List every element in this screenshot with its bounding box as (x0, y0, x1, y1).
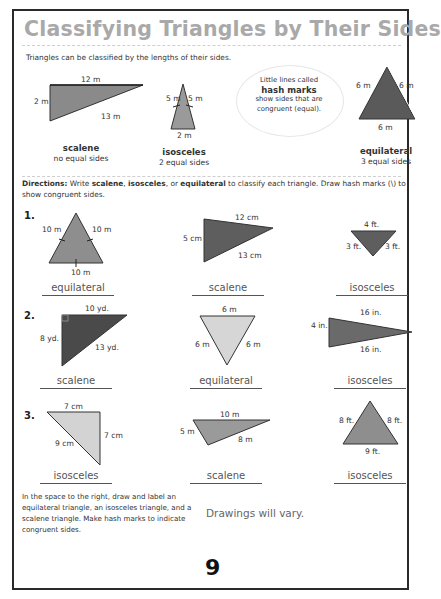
side-label: 10 m (71, 269, 90, 277)
side-label: 2 m (34, 98, 49, 106)
answer-field[interactable]: scalene (192, 282, 264, 296)
triangle-3b (192, 419, 272, 447)
side-label: 12 m (81, 76, 100, 84)
side-label: 8 ft. (339, 417, 354, 425)
side-label: 5 cm (183, 235, 202, 243)
side-label: 3 ft. (346, 243, 361, 251)
side-label: 8 ft. (387, 417, 402, 425)
isosceles-example-triangle (170, 83, 200, 131)
side-label: 6 m (222, 306, 237, 314)
example-type-isosceles: isosceles (149, 148, 219, 157)
example-type-scalene: scalene (46, 144, 116, 153)
directions-text: Write (67, 179, 91, 188)
answer-field[interactable]: equilateral (190, 375, 262, 389)
term-isosceles: isosceles (128, 179, 166, 188)
side-label: 2 m (177, 132, 192, 140)
side-label: 10 m (220, 411, 239, 419)
callout-line: show sides that are (236, 95, 342, 105)
side-label: 13 cm (238, 252, 262, 260)
side-label: 10 yd. (85, 305, 109, 313)
side-label: 5 m (188, 95, 203, 103)
term-scalene: scalene (92, 179, 124, 188)
term-equilateral: equilateral (180, 179, 225, 188)
problem-number: 3. (24, 410, 35, 421)
page-number: 9 (205, 555, 220, 580)
directions-label: Directions: (22, 179, 67, 188)
callout-text: Little lines called hash marks show side… (236, 76, 342, 114)
callout-line: congruent (equal). (236, 105, 342, 115)
example-desc-isosceles: 2 equal sides (139, 159, 229, 167)
answer-field[interactable]: scalene (40, 375, 112, 389)
triangle-1a (48, 212, 106, 264)
side-label: 3 ft. (385, 243, 400, 251)
answer-field[interactable]: isosceles (334, 470, 406, 484)
side-label: 5 m (166, 95, 181, 103)
side-label: 16 in. (360, 309, 381, 317)
side-label: 12 cm (235, 214, 259, 222)
side-label: 9 ft. (365, 448, 380, 456)
equilateral-example-triangle (357, 66, 419, 122)
side-label: 8 yd. (40, 335, 59, 343)
problem-number: 2. (24, 310, 35, 321)
drawing-answer: Drawings will vary. (206, 507, 304, 519)
drawing-instructions: In the space to the right, draw and labe… (22, 491, 192, 535)
side-label: 6 m (399, 82, 414, 90)
side-label: 4 ft. (364, 221, 379, 229)
side-label: 8 m (238, 436, 253, 444)
side-label: 13 m (101, 113, 120, 121)
answer-field[interactable]: isosceles (40, 470, 112, 484)
intro-text: Triangles can be classified by the lengt… (26, 53, 231, 62)
side-label: 6 m (195, 341, 210, 349)
side-label: 7 cm (64, 403, 83, 411)
side-label: 16 in. (360, 346, 381, 354)
problem-number: 1. (24, 210, 35, 221)
example-desc-scalene: no equal sides (36, 155, 126, 163)
side-label: 9 cm (55, 440, 74, 448)
side-label: 10 m (92, 226, 111, 234)
callout-term: hash marks (236, 86, 342, 96)
side-label: 5 m (180, 428, 195, 436)
answer-field[interactable]: scalene (190, 470, 262, 484)
example-type-equilateral: equilateral (346, 147, 426, 156)
directions: Directions: Write scalene, isosceles, or… (22, 178, 412, 200)
page-title: Classifying Triangles by Their Sides (24, 17, 441, 41)
example-desc-equilateral: 3 equal sides (341, 158, 431, 166)
answer-field[interactable]: isosceles (334, 375, 406, 389)
side-label: 6 m (378, 124, 393, 132)
side-label: 7 cm (104, 432, 123, 440)
triangle-2a (61, 314, 129, 368)
directions-text: , or (166, 179, 181, 188)
side-label: 13 yd. (95, 344, 119, 352)
side-label: 10 m (42, 226, 61, 234)
answer-field[interactable]: equilateral (42, 282, 114, 296)
side-label: 6 m (356, 82, 371, 90)
side-label: 4 in. (311, 322, 328, 330)
answer-field[interactable]: isosceles (336, 282, 408, 296)
side-label: 6 m (246, 341, 261, 349)
